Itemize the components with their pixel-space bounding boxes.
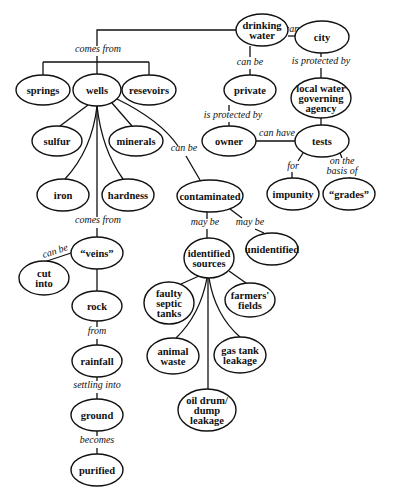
node-label: “grades” <box>329 189 369 200</box>
node-label: ground <box>81 410 114 421</box>
node-purified: purified <box>71 454 123 486</box>
node-veins: “veins” <box>71 237 123 269</box>
node-tests: tests <box>295 125 349 157</box>
node-label: contaminated <box>179 191 240 202</box>
node-label: rock <box>87 301 107 312</box>
node-label: wells <box>86 85 108 96</box>
node-label: city <box>314 32 331 43</box>
node-label: purified <box>79 465 115 476</box>
node-label: into <box>35 278 53 289</box>
link-label: can be <box>41 241 70 260</box>
node-impunity: impunity <box>267 178 319 210</box>
node-label: iron <box>54 190 73 201</box>
node-label: tests <box>312 136 332 147</box>
node-label: leakage <box>190 415 224 426</box>
link-label: settling into <box>73 379 121 390</box>
node-label: rainfall <box>80 356 113 367</box>
node-faulty-septic: faultyseptictanks <box>144 282 194 324</box>
node-label: minerals <box>116 136 155 147</box>
node-label: water <box>249 30 275 41</box>
link-label: can be <box>237 56 264 67</box>
node-label: unidentified <box>245 244 299 255</box>
node-label: fields <box>238 300 262 311</box>
node-contaminated: contaminated <box>177 180 243 212</box>
node-farmers-fields: farmers'fields <box>225 283 275 317</box>
node-ground: ground <box>71 399 123 431</box>
link-label: may be <box>191 216 220 227</box>
node-unidentified: unidentified <box>245 233 299 265</box>
node-label: owner <box>215 136 243 147</box>
node-label: sulfur <box>44 136 71 147</box>
node-label: springs <box>27 85 60 96</box>
node-label: private <box>234 85 266 96</box>
node-rock: rock <box>72 291 122 321</box>
node-hardness: hardness <box>102 179 154 211</box>
node-identified-sources: identifiedsources <box>184 238 234 278</box>
link-label: can have <box>259 127 295 138</box>
node-label: resevoirs <box>129 85 169 96</box>
node-local-water-agency: local watergoverningagency <box>291 78 351 118</box>
link-label: can be <box>171 142 198 153</box>
link-label: comes from <box>75 214 121 225</box>
edge-identified-farmers <box>229 271 246 283</box>
node-sulfur: sulfur <box>32 126 82 156</box>
node-iron: iron <box>37 179 89 211</box>
node-label: waste <box>160 356 185 367</box>
node-oil-drum: oil drum/dumpleakage <box>178 389 236 431</box>
link-label: comes from <box>75 43 121 54</box>
edge-comes-from-bracket <box>43 56 149 75</box>
link-label: is protected by <box>204 109 263 120</box>
node-label: “veins” <box>80 248 113 259</box>
node-label: hardness <box>108 190 148 201</box>
node-label: tanks <box>157 308 182 319</box>
node-private: private <box>224 75 276 105</box>
link-label: is protected by <box>292 55 351 66</box>
node-springs: springs <box>16 75 70 105</box>
node-drinking-water: drinkingwater <box>236 14 288 46</box>
node-minerals: minerals <box>109 126 163 156</box>
node-city: city <box>295 21 349 53</box>
edge-wells-sulfur <box>60 105 88 126</box>
node-resevoirs: resevoirs <box>122 75 176 105</box>
node-rainfall: rainfall <box>72 345 122 377</box>
node-cut-into: cutinto <box>19 261 69 295</box>
link-label: from <box>88 325 107 336</box>
node-animal-waste: animalwaste <box>147 338 199 374</box>
edge-identified-faulty <box>181 276 199 284</box>
node-grades: “grades” <box>323 178 375 210</box>
node-label: impunity <box>273 189 315 200</box>
node-owner: owner <box>202 126 256 156</box>
node-label: sources <box>192 258 225 269</box>
node-gas-tank: gas tankleakage <box>214 337 266 373</box>
link-label: for <box>287 160 299 171</box>
node-label: leakage <box>223 355 257 366</box>
link-label: becomes <box>80 434 115 445</box>
link-label: may be <box>236 216 265 227</box>
link-label: basis of <box>327 165 359 176</box>
node-label: agency <box>306 103 338 114</box>
node-wells: wells <box>73 74 121 106</box>
concept-map: comes fromcan becan beis protected byis … <box>0 0 396 501</box>
edge-wells-minerals <box>112 103 132 126</box>
nodes: drinkingwatercityprivatelocal watergover… <box>16 14 375 486</box>
